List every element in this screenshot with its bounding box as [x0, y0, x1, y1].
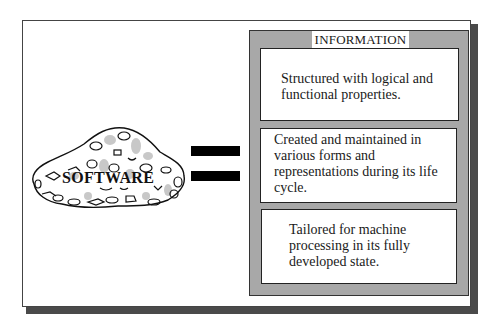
- software-label: SOFTWARE: [62, 169, 154, 187]
- equals-icon-bottom-bar: [191, 171, 240, 181]
- information-item-tailored: Tailored for machine processing in its f…: [261, 209, 457, 284]
- information-item-created: Created and maintained in various forms …: [260, 128, 457, 203]
- information-item-structured: Structured with logical and functional p…: [260, 48, 459, 121]
- rock-blob-icon: [28, 122, 188, 210]
- information-item-text: Structured with logical and functional p…: [281, 71, 456, 103]
- information-item-text: Created and maintained in various forms …: [274, 132, 454, 196]
- information-title: INFORMATION: [312, 31, 409, 48]
- equals-icon-top-bar: [191, 146, 240, 156]
- information-item-text: Tailored for machine processing in its f…: [289, 222, 454, 270]
